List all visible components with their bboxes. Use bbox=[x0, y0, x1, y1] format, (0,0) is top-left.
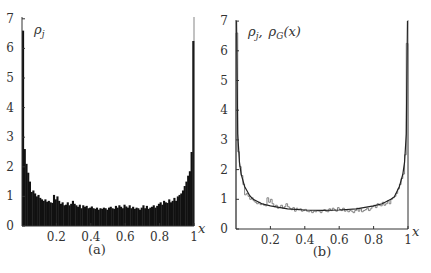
y-tick-label: 7 bbox=[220, 14, 228, 28]
y-tick-label: 5 bbox=[6, 71, 14, 85]
y-tick-label: 2 bbox=[220, 163, 228, 177]
y-tick-label: 3 bbox=[220, 133, 228, 147]
y-tick-label: 5 bbox=[220, 74, 228, 88]
caption-b: (b) bbox=[313, 244, 331, 259]
x-tick-label: 0.6 bbox=[330, 233, 349, 247]
y-tick-label: 4 bbox=[220, 103, 228, 117]
x-tick-label: 0.2 bbox=[47, 230, 66, 244]
histogram-step-outline bbox=[236, 33, 408, 229]
panel-b-histogram-with-curve: 012345670.20.40.60.81 ρj,ρG(x) x (b) bbox=[220, 14, 420, 259]
figure: 012345670.20.40.60.81 ρj x (a) 012345670… bbox=[0, 0, 431, 273]
rho-g-curve bbox=[237, 21, 408, 210]
x-tick-label: 0.8 bbox=[150, 230, 169, 244]
x-tick-label: 1 bbox=[404, 233, 412, 247]
y-tick-label: 7 bbox=[6, 12, 14, 26]
histogram-bars bbox=[22, 31, 194, 226]
y-tick-label: 1 bbox=[220, 192, 228, 206]
y-tick-label: 4 bbox=[6, 101, 14, 115]
x-axis-label: x bbox=[412, 224, 420, 239]
caption-a: (a) bbox=[88, 242, 106, 257]
y-tick-label: 0 bbox=[6, 219, 14, 233]
x-tick-label: 1 bbox=[190, 230, 198, 244]
x-tick-label: 0.2 bbox=[261, 233, 280, 247]
y-tick-label: 2 bbox=[6, 160, 14, 174]
y-tick-label: 6 bbox=[6, 41, 14, 55]
y-tick-label: 3 bbox=[6, 130, 14, 144]
legend-rho-j-rho-g: ρj,ρG(x) bbox=[247, 24, 301, 41]
y-tick-label: 1 bbox=[6, 189, 14, 203]
x-tick-label: 0.6 bbox=[116, 230, 135, 244]
x-tick-label: 0.8 bbox=[364, 233, 383, 247]
x-axis-label: x bbox=[198, 221, 206, 236]
y-tick-label: 6 bbox=[220, 44, 228, 58]
y-tick-label: 0 bbox=[220, 222, 228, 236]
legend-rho-j: ρj bbox=[33, 22, 45, 39]
panel-a-histogram: 012345670.20.40.60.81 ρj x (a) bbox=[6, 12, 206, 257]
